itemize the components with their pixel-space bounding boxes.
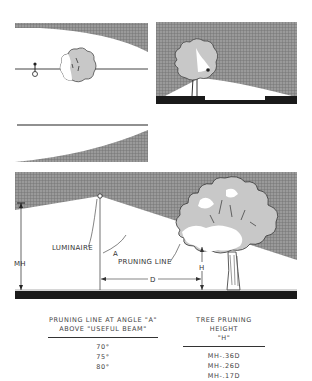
luminaire-icon bbox=[98, 194, 102, 198]
h-label: H bbox=[199, 264, 205, 272]
ground-bar bbox=[15, 291, 297, 299]
panel-middle-left bbox=[15, 125, 148, 162]
ground-bar bbox=[156, 96, 297, 104]
table-cell-height: MH-.26D bbox=[183, 361, 265, 371]
table-column-angle: PRUNING LINE AT ANGLE "A" ABOVE "USEFUL … bbox=[48, 316, 158, 372]
column-header-angle: PRUNING LINE AT ANGLE "A" ABOVE "USEFUL … bbox=[48, 316, 158, 338]
table-cell-height: MH-.17D bbox=[183, 371, 265, 381]
table-cell-angle: 80° bbox=[48, 362, 158, 372]
d-label: D bbox=[150, 276, 156, 284]
rising-curve-shade bbox=[15, 130, 148, 162]
table-cell-angle: 75° bbox=[48, 352, 158, 362]
panel-top-left bbox=[15, 23, 148, 82]
pruning-line-label: PRUNING LINE bbox=[118, 258, 172, 266]
mh-label: MH bbox=[14, 260, 26, 268]
panel-top-right bbox=[156, 22, 297, 104]
panel-main: MH LUMINAIRE A PRUNING LINE D H bbox=[14, 172, 297, 299]
shrub-icon bbox=[60, 48, 96, 82]
angle-label: A bbox=[113, 250, 118, 258]
table-cell-angle: 70° bbox=[48, 342, 158, 352]
column-header-height: TREE PRUNING HEIGHT "H" bbox=[183, 316, 265, 347]
table-column-height: TREE PRUNING HEIGHT "H" MH-.36D MH-.26D … bbox=[183, 316, 265, 381]
luminaire-label: LUMINAIRE bbox=[52, 244, 93, 252]
table-cell-height: MH-.36D bbox=[183, 351, 265, 361]
